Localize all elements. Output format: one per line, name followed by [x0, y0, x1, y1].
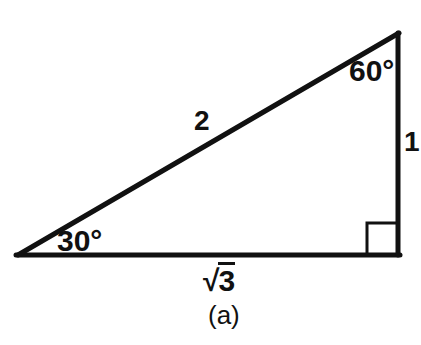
figure-caption: (a): [208, 302, 240, 328]
radicand-value: 3: [218, 262, 235, 296]
triangle-side-hypotenuse: [18, 33, 399, 255]
angle-label-60: 60°: [349, 56, 394, 86]
side-label-base: √3: [203, 262, 235, 296]
angle-label-30: 30°: [57, 226, 102, 256]
right-angle-marker-icon: [367, 223, 398, 255]
side-label-vertical: 1: [404, 128, 420, 156]
radical-group: √3: [203, 262, 235, 296]
side-label-hypotenuse: 2: [194, 107, 210, 135]
radical-sign-icon: √: [203, 264, 219, 297]
figure-container: 30° 60° 2 1 √3 (a): [0, 0, 421, 345]
